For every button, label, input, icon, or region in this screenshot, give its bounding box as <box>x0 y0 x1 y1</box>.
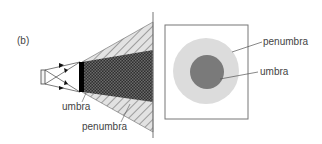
umbra-disc <box>190 55 224 89</box>
panel-label: (b) <box>17 36 29 46</box>
left-penumbra-label: penumbra <box>82 122 127 132</box>
right-umbra-label: umbra <box>260 67 288 77</box>
right-penumbra-label: penumbra <box>263 37 308 47</box>
occluder <box>79 62 84 92</box>
left-umbra-label: umbra <box>62 102 90 112</box>
light-source <box>41 62 80 92</box>
